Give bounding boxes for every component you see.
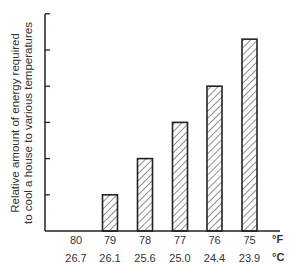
x-tick-label-f: 77: [174, 234, 186, 246]
bar-78: [138, 159, 153, 231]
celsius-unit-label: °C: [272, 251, 284, 263]
x-tick-label-f: 79: [104, 234, 116, 246]
x-tick-label-f: 78: [139, 234, 151, 246]
x-tick-label-c: 26.7: [65, 252, 86, 264]
plot-area: [0, 0, 302, 274]
x-tick-label-c: 23.9: [239, 252, 260, 264]
x-tick-label-f: 80: [70, 234, 82, 246]
y-axis-label: Relative amount of energy required to co…: [2, 14, 42, 231]
x-tick-label-c: 24.4: [204, 252, 225, 264]
y-axis-label-line-1: Relative amount of energy required: [9, 21, 22, 223]
bar-77: [173, 122, 188, 231]
bar-79: [103, 195, 118, 231]
bar-75: [242, 39, 257, 231]
x-tick-label-f: 76: [208, 234, 220, 246]
bar-76: [207, 86, 222, 231]
bar-chart: Relative amount of energy required to co…: [0, 0, 302, 274]
y-axis-label-line-2: to cool a house to various temperatures: [22, 21, 35, 223]
x-tick-label-c: 26.1: [99, 252, 120, 264]
x-tick-label-c: 25.6: [134, 252, 155, 264]
x-tick-label-f: 75: [243, 234, 255, 246]
fahrenheit-unit-label: °F: [272, 233, 283, 245]
x-tick-label-c: 25.0: [169, 252, 190, 264]
